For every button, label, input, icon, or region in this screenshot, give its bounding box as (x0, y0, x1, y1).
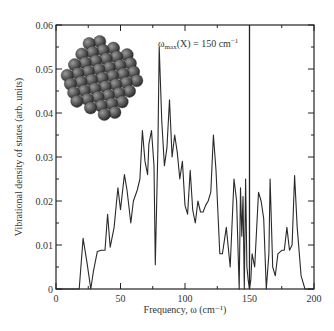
annotation-text: (X) = 150 cm (177, 38, 231, 50)
y-tick-label: 0.03 (36, 152, 54, 163)
x-tick-label: 200 (307, 293, 322, 304)
y-axis-title: Vibrational density of states (arb. unit… (13, 78, 25, 236)
x-tick-label: 100 (178, 293, 193, 304)
x-axis-title: Frequency, ω (cm⁻¹) (144, 304, 227, 316)
y-tick-label: 0 (48, 284, 53, 295)
y-tick-label: 0.04 (36, 108, 54, 119)
omega-max-annotation: ωmax(X) = 150 cm−1 (158, 37, 239, 51)
annotation-sub: max (165, 43, 178, 51)
y-tick-label: 0.06 (36, 20, 54, 31)
x-tick-label: 150 (242, 293, 257, 304)
x-tick-label: 50 (116, 293, 126, 304)
y-tick-label: 0.01 (36, 240, 54, 251)
annotation-sup: −1 (231, 37, 239, 45)
y-tick-label: 0.02 (36, 196, 54, 207)
chart: 05010015020000.010.020.030.040.050.06 ωm… (0, 0, 334, 331)
x-tick-label: 0 (54, 293, 59, 304)
nanoparticle-cluster-image (61, 35, 143, 120)
y-tick-label: 0.05 (36, 64, 54, 75)
